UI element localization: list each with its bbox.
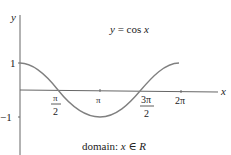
cosine-chart: y x y = cos x 1 −1 π 2 π 3π 2 2π domain:… [0,0,231,155]
x-tick-label-3pi-half-den: 2 [144,108,149,119]
y-tick-label-1: 1 [10,57,16,69]
x-tick-label-3pi-half-num: 3π [141,94,151,105]
x-tick-label-pi: π [96,95,101,105]
domain-annotation: domain: x ∈ R [82,140,146,152]
x-axis [20,90,218,92]
x-tick-label-pi-half-num: π [53,93,58,103]
x-tick-label-2pi: 2π [175,95,185,106]
y-tick-label-neg1: −1 [0,111,12,123]
x-axis-label: x [220,85,226,97]
x-tick-label-pi-half-den: 2 [53,106,58,117]
chart-title: y = cos x [109,23,149,35]
y-axis-label: y [10,11,16,23]
